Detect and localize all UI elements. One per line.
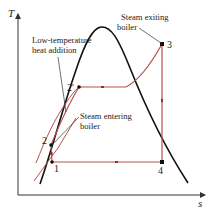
annotation-enter-2: boiler <box>80 121 100 131</box>
annotation-enter-1: Steam entering <box>80 111 132 121</box>
label-1: 1 <box>54 163 59 174</box>
superheat-to-3 <box>126 44 162 87</box>
marker-pump <box>51 152 53 155</box>
y-axis-label: T <box>8 7 15 19</box>
point-4 <box>160 160 164 164</box>
label-2: 2 <box>42 135 47 146</box>
point-2p <box>77 85 81 89</box>
label-2p: 2' <box>67 82 74 93</box>
annotation-exit-1: Steam exiting <box>121 12 169 22</box>
leader-exit <box>139 28 161 43</box>
annotation-low-temp-1: Low-temperature <box>32 35 92 45</box>
label-3: 3 <box>167 39 172 50</box>
leader-low-temp <box>58 57 66 112</box>
marker-condense <box>115 161 118 163</box>
label-4: 4 <box>158 165 163 176</box>
x-axis-label: s <box>198 197 202 209</box>
marker-evap <box>101 86 104 88</box>
annotation-exit-2: boiler <box>117 22 137 32</box>
marker-expansion <box>161 99 163 102</box>
ts-diagram: T s <box>0 0 213 212</box>
annotation-low-temp-2: heat addition <box>32 45 77 55</box>
